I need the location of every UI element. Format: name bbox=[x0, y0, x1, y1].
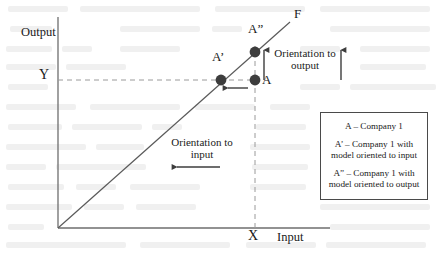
y-tick-label: Y bbox=[39, 67, 49, 83]
legend-box: A – Company 1 A’ – Company 1 with model … bbox=[320, 112, 428, 200]
frontier-label: F bbox=[294, 7, 301, 22]
legend-item-a-double-prime: A” – Company 1 with model oriented to ou… bbox=[329, 168, 420, 190]
point-label-a-prime: A’ bbox=[212, 50, 224, 65]
point-a2-marker bbox=[250, 47, 261, 58]
annotation-orientation-to-input: Orientation to input bbox=[165, 136, 239, 161]
diagram-page: Output Input Y X F A A’ A” Orientation t… bbox=[0, 0, 445, 263]
legend-item-a-prime: A’ – Company 1 with model oriented to in… bbox=[331, 139, 417, 161]
x-tick-label: X bbox=[248, 228, 258, 244]
x-axis-label: Input bbox=[277, 230, 303, 244]
annotation-orientation-to-output: Orientation to output bbox=[272, 47, 338, 72]
y-axis-label: Output bbox=[21, 25, 56, 39]
legend-item-a: A – Company 1 bbox=[345, 121, 403, 132]
point-label-a: A bbox=[262, 73, 271, 88]
point-label-a-double-prime: A” bbox=[248, 22, 263, 37]
point-a1-marker bbox=[216, 75, 227, 86]
point-a-marker bbox=[250, 75, 261, 86]
